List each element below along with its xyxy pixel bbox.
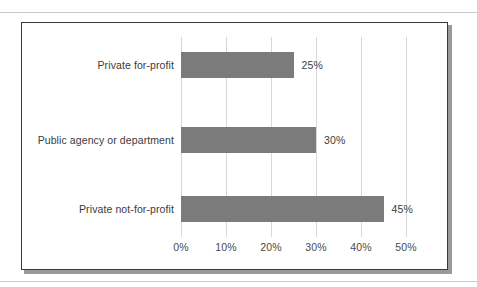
x-axis-tick-label: 20% bbox=[260, 241, 281, 253]
bar-value-label: 30% bbox=[324, 134, 345, 146]
category-label: Private not-for-profit bbox=[79, 203, 174, 215]
x-axis-tick-label: 0% bbox=[173, 241, 188, 253]
x-axis-tick-label: 40% bbox=[350, 241, 371, 253]
category-label: Private for-profit bbox=[98, 59, 175, 71]
bar-row: Private for-profit25% bbox=[22, 52, 449, 78]
bar-track: 30% bbox=[181, 127, 407, 153]
page-rule-top bbox=[0, 12, 477, 13]
x-axis-tick-label: 50% bbox=[395, 241, 416, 253]
bar bbox=[181, 196, 384, 222]
bar bbox=[181, 127, 316, 153]
bar bbox=[181, 52, 294, 78]
plot-area: Private for-profit25%Public agency or de… bbox=[22, 23, 449, 271]
bar-track: 45% bbox=[181, 196, 407, 222]
x-axis-tick-label: 30% bbox=[305, 241, 326, 253]
page-rule-bottom bbox=[0, 281, 477, 282]
chart-figure-frame: Private for-profit25%Public agency or de… bbox=[21, 22, 448, 270]
category-label: Public agency or department bbox=[38, 134, 174, 146]
bar-row: Public agency or department30% bbox=[22, 127, 449, 153]
bar-value-label: 25% bbox=[302, 59, 323, 71]
x-axis-tick-label: 10% bbox=[215, 241, 236, 253]
bar-track: 25% bbox=[181, 52, 407, 78]
bar-row: Private not-for-profit45% bbox=[22, 196, 449, 222]
bar-value-label: 45% bbox=[392, 203, 413, 215]
